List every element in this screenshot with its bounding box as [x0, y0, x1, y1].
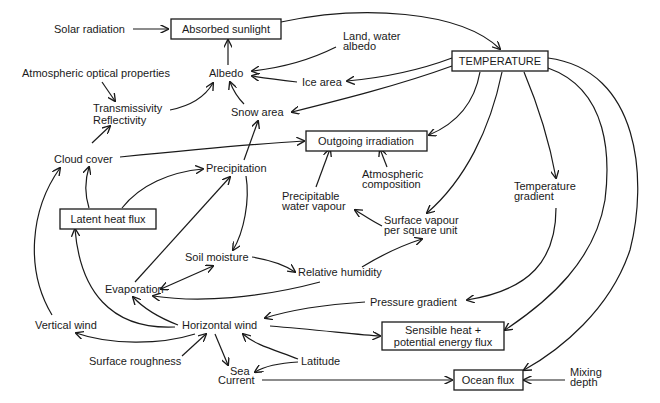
edge-cloudcover-to-outgoing — [120, 141, 304, 157]
node-cloud-cover: Cloud cover — [54, 153, 113, 165]
edge-pressure-to-horizontal — [265, 302, 365, 318]
edge-latent-to-precipitation — [122, 169, 203, 208]
node-sensible-heat-flux: Sensible heat + potential energy flux — [382, 322, 504, 350]
edge-horizontal-to-seacurrent — [215, 334, 228, 365]
node-transmissivity: Transmissivity — [93, 102, 163, 114]
edge-snowarea-to-albedo — [230, 82, 244, 104]
edge-cloudcover-to-transmissivity — [92, 126, 110, 143]
node-temperature-label: TEMPERATURE — [459, 55, 541, 67]
edge-precipitation-to-soilmoisture — [233, 176, 247, 250]
node-latent-heat-flux: Latent heat flux — [60, 209, 156, 229]
edge-horizontal-to-vertical — [76, 333, 195, 342]
edge-transmissivity-to-albedo — [170, 83, 213, 110]
edge-surfacevapour-to-pwv — [355, 210, 382, 226]
edge-pwv-to-outgoing — [316, 149, 330, 187]
edge-temperature-to-surfacevapour — [427, 72, 502, 213]
edge-temperature-to-icearea — [347, 58, 452, 81]
climate-feedback-diagram: Absorbed sunlight TEMPERATURE Outgoing i… — [0, 0, 660, 403]
node-latitude: Latitude — [301, 355, 340, 367]
node-vertical-wind: Vertical wind — [35, 319, 97, 331]
edge-soilmoisture-evaporation — [161, 266, 213, 289]
node-snow-area: Snow area — [231, 106, 284, 118]
node-evaporation: Evaporation — [105, 283, 164, 295]
edge-relhum-to-surfacevapour — [362, 239, 422, 267]
node-albedo: Albedo — [209, 67, 243, 79]
node-precipitable-water-vapour-2: water vapour — [281, 200, 346, 212]
node-land-water-albedo-2: albedo — [343, 40, 376, 52]
edge-tempgradient-to-pressure — [467, 208, 556, 300]
edge-horizontal-to-sensible — [270, 326, 380, 336]
node-sea-current-2: Current — [218, 374, 255, 386]
node-ice-area: Ice area — [302, 76, 343, 88]
edge-latitude-to-horizontal — [243, 334, 298, 359]
node-outgoing-irradiation: Outgoing irradiation — [306, 131, 427, 151]
node-ocean-flux: Ocean flux — [454, 370, 523, 390]
edge-temperature-to-oceanflux — [524, 58, 638, 370]
edge-temperature-to-tempgradient — [524, 72, 556, 178]
node-reflectivity: Reflectivity — [93, 114, 147, 126]
edge-temperature-to-outgoing — [429, 72, 480, 135]
node-temperature-gradient-2: gradient — [514, 190, 554, 202]
node-absorbed-sunlight-label: Absorbed sunlight — [182, 23, 270, 35]
edge-icearea-to-albedo — [252, 76, 297, 82]
edge-latitude-to-seacurrent — [255, 362, 298, 372]
edge-soilmoisture-to-relhum — [252, 257, 295, 272]
node-ocean-flux-label: Ocean flux — [462, 374, 515, 386]
node-pressure-gradient: Pressure gradient — [370, 296, 457, 308]
node-mixing-depth-2: depth — [570, 376, 598, 388]
node-horizontal-wind: Horizontal wind — [182, 319, 257, 331]
edge-precipitation-to-snowarea — [244, 121, 258, 160]
edge-optical-to-transmissivity — [102, 82, 115, 101]
node-absorbed-sunlight: Absorbed sunlight — [171, 19, 281, 39]
node-surface-vapour-2: per square unit — [384, 224, 457, 236]
node-precipitation: Precipitation — [206, 162, 267, 174]
edge-horizontal-to-evaporation — [133, 297, 178, 325]
edge-roughness-to-horizontal — [182, 334, 206, 356]
edge-horizontal-to-latent — [75, 229, 175, 327]
node-sensible-heat-label-2: potential energy flux — [394, 336, 493, 348]
node-latent-heat-flux-label: Latent heat flux — [70, 213, 146, 225]
node-atmospheric-composition-2: composition — [362, 178, 421, 190]
node-atmospheric-optical-properties: Atmospheric optical properties — [22, 67, 170, 79]
node-surface-roughness: Surface roughness — [89, 355, 182, 367]
node-soil-moisture: Soil moisture — [185, 251, 249, 263]
node-solar-radiation: Solar radiation — [54, 23, 125, 35]
edge-vertical-to-cloudcover — [34, 168, 60, 315]
node-temperature: TEMPERATURE — [452, 51, 548, 71]
edge-landwater-to-albedo — [252, 47, 336, 71]
node-sensible-heat-label-1: Sensible heat + — [405, 324, 481, 336]
edge-temperature-to-snowarea — [292, 66, 452, 112]
edge-latent-to-cloudcover — [86, 167, 89, 208]
node-outgoing-irradiation-label: Outgoing irradiation — [318, 135, 414, 147]
edge-relhum-to-evaporation — [153, 282, 320, 299]
node-relative-humidity: Relative humidity — [298, 266, 382, 278]
edge-composition-to-outgoing — [380, 149, 387, 167]
